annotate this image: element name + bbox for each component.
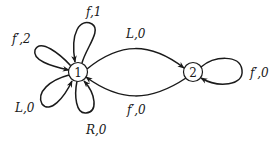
node-2: 2 bbox=[184, 63, 203, 82]
label-L0-1to2: L,0 bbox=[125, 27, 146, 41]
label-f1: f,1 bbox=[85, 5, 101, 19]
label-fprime0-2to1: f′,0 bbox=[126, 103, 146, 117]
label-L0-self: L,0 bbox=[14, 101, 35, 115]
edge-2-to-1-fprime0 bbox=[86, 77, 186, 96]
node-1-label: 1 bbox=[74, 66, 82, 80]
label-R0: R,0 bbox=[85, 123, 107, 137]
label-fprime0-node2: f′,0 bbox=[249, 66, 269, 80]
node-2-label: 2 bbox=[189, 66, 197, 80]
label-fprime2: f′,2 bbox=[11, 32, 31, 46]
edge-loop-L0-self bbox=[41, 75, 72, 107]
edge-loop-f1 bbox=[74, 23, 96, 63]
edge-1-to-2-L0 bbox=[87, 49, 184, 69]
edge-loop-R0 bbox=[76, 81, 94, 113]
edge-loop-fprime2 bbox=[35, 46, 71, 70]
state-diagram: 1 2 f,1 f′,2 L,0 R,0 L,0 f′,0 f′,0 bbox=[0, 0, 280, 142]
edge-loop-fprime0-node2 bbox=[201, 58, 242, 84]
node-1: 1 bbox=[69, 63, 88, 82]
